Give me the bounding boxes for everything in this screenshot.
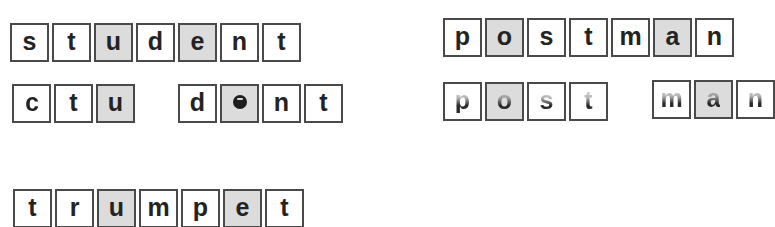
letter: n bbox=[274, 90, 289, 115]
letter-tile: r bbox=[55, 189, 94, 227]
letter-tile: m bbox=[139, 189, 178, 227]
letter-tile: t bbox=[304, 84, 343, 123]
letter: t bbox=[69, 90, 77, 115]
blob-letter: e bbox=[233, 95, 247, 109]
word-postman: p o s t m a n bbox=[443, 18, 734, 57]
letter: e bbox=[236, 195, 250, 220]
letter-tile-blob: e bbox=[220, 84, 259, 123]
letter-tile: t bbox=[262, 23, 301, 62]
letter: n bbox=[232, 29, 247, 54]
letter-tile: d bbox=[136, 23, 175, 62]
letter-tile: p bbox=[443, 18, 482, 57]
letter-tile: s bbox=[527, 18, 566, 57]
letter: t bbox=[28, 195, 36, 220]
letter: n bbox=[748, 86, 763, 111]
letter-tile: n bbox=[262, 84, 301, 123]
letter: p bbox=[193, 195, 208, 220]
letter: u bbox=[106, 29, 121, 54]
letter: s bbox=[540, 24, 554, 49]
letter: o bbox=[497, 24, 512, 49]
letter: t bbox=[277, 29, 285, 54]
letter-tile-shaded-faded: o bbox=[485, 82, 524, 121]
letter: t bbox=[584, 88, 592, 113]
letter: t bbox=[584, 24, 592, 49]
letter-tile-faded: s bbox=[527, 82, 566, 121]
letter: p bbox=[455, 88, 470, 113]
letter-tile: t bbox=[569, 18, 608, 57]
letter: s bbox=[23, 29, 37, 54]
word-student-split-part1: ɔ t u bbox=[12, 84, 135, 123]
letter: t bbox=[319, 90, 327, 115]
word-postman-split-part1: p o s t bbox=[443, 82, 608, 121]
word-trumpet: t r u m p e t bbox=[13, 189, 304, 227]
letter-tile-shaded: e bbox=[178, 23, 217, 62]
letter-tile: d bbox=[178, 84, 217, 123]
letter: s bbox=[540, 88, 554, 113]
letter: u bbox=[109, 195, 124, 220]
letter: a bbox=[707, 86, 721, 111]
letter-tile-shaded: u bbox=[94, 23, 133, 62]
letter-tile-shaded: o bbox=[485, 18, 524, 57]
letter: d bbox=[190, 90, 205, 115]
letter: e bbox=[191, 29, 205, 54]
letter-tile: s bbox=[10, 23, 49, 62]
letter-tile-shaded: u bbox=[96, 84, 135, 123]
letter-tile-reversed: ɔ bbox=[12, 84, 51, 123]
letter: m bbox=[619, 24, 641, 49]
letter-tile: p bbox=[181, 189, 220, 227]
letter: a bbox=[666, 24, 680, 49]
letter-tile-faded: m bbox=[652, 80, 691, 119]
letter-tile-faded: p bbox=[443, 82, 482, 121]
letter-tile: n bbox=[695, 18, 734, 57]
letter-tile-faded: n bbox=[736, 80, 775, 119]
letter-tile-shaded-faded: a bbox=[694, 80, 733, 119]
letter-tile: t bbox=[52, 23, 91, 62]
letter: t bbox=[67, 29, 75, 54]
letter-tile: t bbox=[54, 84, 93, 123]
letter: p bbox=[455, 24, 470, 49]
word-student-split-part2: d e n t bbox=[178, 84, 343, 123]
letter: m bbox=[147, 195, 169, 220]
letter: o bbox=[497, 88, 512, 113]
letter-tile-shaded: u bbox=[97, 189, 136, 227]
letter: n bbox=[707, 24, 722, 49]
letter-tile-shaded: e bbox=[223, 189, 262, 227]
letter: r bbox=[70, 195, 80, 220]
letter-tile: m bbox=[611, 18, 650, 57]
word-postman-split-part2: m a n bbox=[652, 80, 775, 119]
letter-tile-shaded: a bbox=[653, 18, 692, 57]
letter-tile: t bbox=[13, 189, 52, 227]
letter: u bbox=[108, 90, 123, 115]
letter-tile-faded: t bbox=[569, 82, 608, 121]
letter-tile: n bbox=[220, 23, 259, 62]
letter: t bbox=[280, 195, 288, 220]
letter-tile: t bbox=[265, 189, 304, 227]
reversed-letter: ɔ bbox=[25, 90, 39, 115]
letter: d bbox=[148, 29, 163, 54]
word-student: s t u d e n t bbox=[10, 23, 301, 62]
letter: m bbox=[660, 86, 682, 111]
